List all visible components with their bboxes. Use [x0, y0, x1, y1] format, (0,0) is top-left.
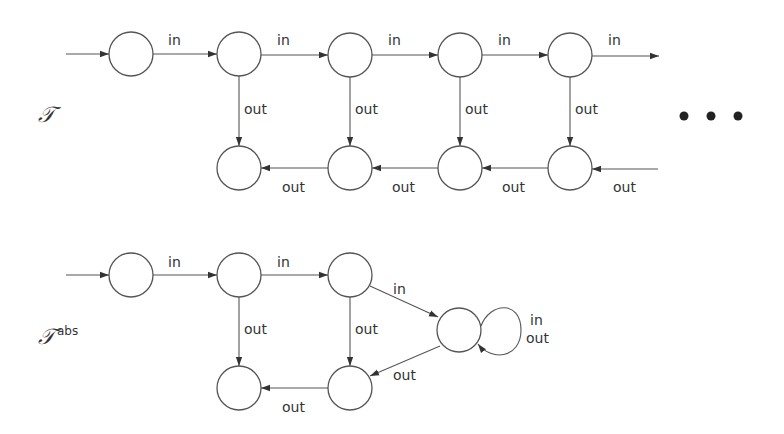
edge-label: out: [575, 101, 598, 117]
state-t-top-4: [548, 33, 592, 77]
state-t-top-3: [438, 33, 482, 77]
state-abs-top-1: [217, 253, 261, 297]
edge-label: in: [498, 32, 511, 48]
ellipsis-icon: [680, 112, 743, 121]
edge-label: out: [244, 101, 267, 117]
system-t-label: 𝒯: [38, 102, 62, 127]
state-t-top-0: [109, 32, 153, 76]
edge-label: in: [277, 254, 290, 270]
transition-systems-diagram: 𝒯 in in in in in out out out out: [0, 0, 784, 434]
edge-label: in: [393, 281, 406, 297]
edge-label: out: [392, 179, 415, 195]
edge-label: out: [282, 179, 305, 195]
self-loop-edge: [478, 308, 521, 355]
state-t-bottom-4: [548, 146, 592, 190]
system-t-abs-superscript: abs: [57, 324, 78, 338]
edge-label: in: [168, 254, 181, 270]
system-t-abs: 𝒯 abs in in in out out out out in out: [38, 253, 549, 415]
edge-label: out: [465, 101, 488, 117]
state-t-top-1: [217, 32, 261, 76]
edge-label: out: [355, 321, 378, 337]
edge-label: out: [393, 367, 416, 383]
state-abs-bottom-1: [217, 366, 261, 410]
state-t-bottom-2: [328, 146, 372, 190]
edge-label: in: [277, 32, 290, 48]
state-t-bottom-3: [438, 146, 482, 190]
state-abs-top-2: [328, 253, 372, 297]
edge-label: out: [244, 321, 267, 337]
edge-label: out: [355, 101, 378, 117]
edge-label: in: [168, 32, 181, 48]
edge-label: out: [613, 179, 636, 195]
state-abs-sink: [437, 308, 481, 352]
edge-label: out: [282, 399, 305, 415]
state-abs-top-0: [109, 253, 153, 297]
state-t-top-2: [328, 33, 372, 77]
edge-label: in: [608, 32, 621, 48]
state-t-bottom-1: [217, 146, 261, 190]
edge-label: out: [526, 330, 549, 346]
edge-label: in: [530, 312, 543, 328]
system-t: 𝒯 in in in in in out out out out: [38, 32, 743, 195]
state-abs-bottom-2: [328, 366, 372, 410]
edge-label: in: [388, 32, 401, 48]
edge-label: out: [502, 179, 525, 195]
